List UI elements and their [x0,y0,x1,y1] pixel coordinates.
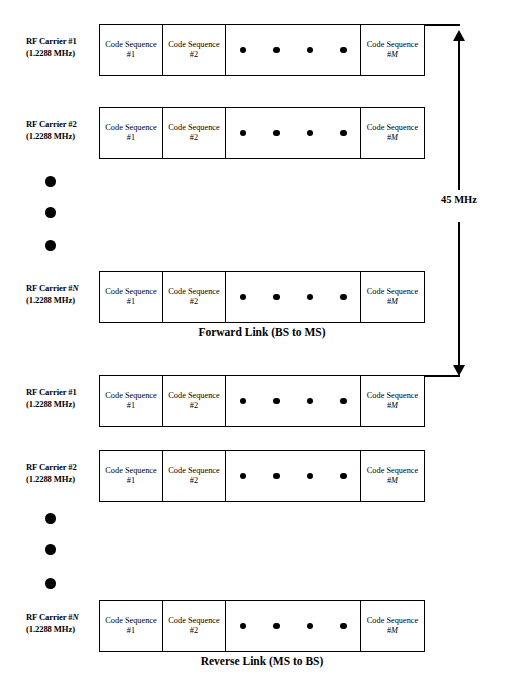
code-sequence-ellipsis-cell [226,272,361,322]
row-label-line1: RF Carrier #1 [26,387,108,399]
row-label-forward-carrier-n: RF Carrier #N (1.2288 MHz) [26,283,108,306]
code-sequence-label: Code Sequence [105,40,156,49]
row-label-reverse-carrier-n: RF Carrier #N (1.2288 MHz) [26,612,108,635]
code-sequence-label: Code Sequence [168,466,219,475]
code-sequence-label: Code Sequence [105,287,156,296]
carrier-strip-forward-1: Code Sequence #1 Code Sequence #2 Code S… [99,24,425,76]
code-sequence-cell-2: Code Sequence #2 [163,108,226,158]
horizontal-ellipsis-icon [226,398,360,405]
row-label-reverse-carrier-1: RF Carrier #1 (1.2288 MHz) [26,387,108,410]
carrier-strip-reverse-n: Code Sequence #1 Code Sequence #2 Code S… [99,600,425,652]
vertical-ellipsis-forward-icon [45,176,56,256]
code-sequence-index: #2 [190,297,198,306]
code-sequence-cell-m: Code Sequence #M [361,272,424,322]
code-sequence-index: #2 [190,626,198,635]
code-sequence-label: Code Sequence [168,123,219,132]
code-sequence-index: #2 [190,476,198,485]
code-sequence-label: Code Sequence [367,287,418,296]
code-sequence-label: Code Sequence [367,40,418,49]
code-sequence-index-italic: M [391,626,398,635]
forward-link-caption: Forward Link (BS to MS) [99,326,425,338]
row-label-forward-carrier-1: RF Carrier #1 (1.2288 MHz) [26,36,108,59]
separation-arrow-shaft-lower [458,222,460,369]
row-label-line1-italic: N [73,612,79,622]
code-sequence-cell-2: Code Sequence #2 [163,451,226,501]
code-sequence-index: #2 [190,401,198,410]
carrier-strip-reverse-2: Code Sequence #1 Code Sequence #2 Code S… [99,450,425,502]
code-sequence-cell-m: Code Sequence #M [361,451,424,501]
horizontal-ellipsis-icon [226,130,360,137]
code-sequence-cell-2: Code Sequence #2 [163,376,226,426]
code-sequence-label: Code Sequence [367,466,418,475]
carrier-strip-forward-2: Code Sequence #1 Code Sequence #2 Code S… [99,107,425,159]
code-sequence-label: Code Sequence [105,391,156,400]
row-label-reverse-carrier-2: RF Carrier #2 (1.2288 MHz) [26,462,108,485]
code-sequence-cell-m: Code Sequence #M [361,601,424,651]
code-sequence-cell-m: Code Sequence #M [361,108,424,158]
code-sequence-label: Code Sequence [367,616,418,625]
code-sequence-label: Code Sequence [168,287,219,296]
row-label-line2: (1.2288 MHz) [26,399,108,411]
row-label-line1-prefix: RF Carrier # [26,612,73,622]
code-sequence-ellipsis-cell [226,108,361,158]
code-sequence-index: #1 [127,476,135,485]
row-label-line2: (1.2288 MHz) [26,474,108,486]
code-sequence-ellipsis-cell [226,451,361,501]
code-sequence-ellipsis-cell [226,601,361,651]
code-sequence-index-italic: M [391,476,398,485]
code-sequence-label: Code Sequence [105,123,156,132]
horizontal-ellipsis-icon [226,47,360,54]
row-label-line2: (1.2288 MHz) [26,295,108,307]
horizontal-ellipsis-icon [226,473,360,480]
code-sequence-cell-1: Code Sequence #1 [100,108,163,158]
row-label-line2: (1.2288 MHz) [26,48,108,60]
row-label-line2: (1.2288 MHz) [26,131,108,143]
code-sequence-index: #2 [190,133,198,142]
separation-arrow-shaft-upper [458,40,460,190]
cdma-carrier-allocation-diagram: RF Carrier #1 (1.2288 MHz) Code Sequence… [0,0,511,681]
code-sequence-cell-2: Code Sequence #2 [163,25,226,75]
row-label-line1: RF Carrier #2 [26,462,108,474]
row-label-line1: RF Carrier #N [26,612,108,624]
code-sequence-cell-1: Code Sequence #1 [100,25,163,75]
code-sequence-cell-m: Code Sequence #M [361,25,424,75]
carrier-strip-reverse-1: Code Sequence #1 Code Sequence #2 Code S… [99,375,425,427]
code-sequence-label: Code Sequence [367,391,418,400]
separation-tick-top [425,24,460,26]
code-sequence-cell-m: Code Sequence #M [361,376,424,426]
code-sequence-cell-1: Code Sequence #1 [100,451,163,501]
code-sequence-cell-1: Code Sequence #1 [100,376,163,426]
code-sequence-label: Code Sequence [168,40,219,49]
row-label-line1-prefix: RF Carrier # [26,283,73,293]
code-sequence-index: #2 [190,50,198,59]
code-sequence-label: Code Sequence [105,466,156,475]
code-sequence-cell-2: Code Sequence #2 [163,601,226,651]
code-sequence-index-italic: M [391,401,398,410]
row-label-line1: RF Carrier #2 [26,119,108,131]
row-label-line1: RF Carrier #N [26,283,108,295]
row-label-line1: RF Carrier #1 [26,36,108,48]
code-sequence-label: Code Sequence [168,616,219,625]
separation-label: 45 MHz [414,194,504,205]
code-sequence-index-italic: M [391,297,398,306]
code-sequence-label: Code Sequence [367,123,418,132]
row-label-line2: (1.2288 MHz) [26,624,108,636]
row-label-forward-carrier-2: RF Carrier #2 (1.2288 MHz) [26,119,108,142]
horizontal-ellipsis-icon [226,623,360,630]
code-sequence-label: Code Sequence [168,391,219,400]
code-sequence-index: #1 [127,626,135,635]
code-sequence-ellipsis-cell [226,25,361,75]
vertical-ellipsis-reverse-icon [45,513,56,593]
code-sequence-label: Code Sequence [105,616,156,625]
code-sequence-index: #1 [127,401,135,410]
row-label-line1-italic: N [73,283,79,293]
code-sequence-ellipsis-cell [226,376,361,426]
horizontal-ellipsis-icon [226,294,360,301]
code-sequence-index: #1 [127,297,135,306]
separation-arrowhead-down-icon [453,365,465,376]
carrier-strip-forward-n: Code Sequence #1 Code Sequence #2 Code S… [99,271,425,323]
code-sequence-index: #1 [127,133,135,142]
code-sequence-index-italic: M [391,50,398,59]
code-sequence-cell-2: Code Sequence #2 [163,272,226,322]
reverse-link-caption: Reverse Link (MS to BS) [99,655,425,667]
